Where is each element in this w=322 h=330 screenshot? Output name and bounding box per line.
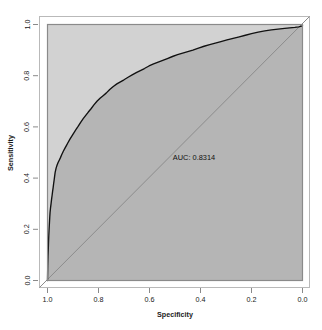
x-axis-tick-label: 0.4 (196, 295, 206, 304)
x-axis-tick-label: 0.0 (298, 295, 308, 304)
x-axis-tick-label: 0.8 (94, 295, 104, 304)
x-axis-tick-label: 1.0 (43, 295, 53, 304)
y-axis-tick-label: 0.0 (23, 276, 32, 286)
x-axis-title: Specificity (157, 310, 193, 319)
y-axis-title: Sensitivity (6, 135, 15, 171)
y-axis-tick-label: 1.0 (23, 20, 32, 30)
y-axis-tick-label: 0.4 (23, 173, 32, 183)
roc-plot-canvas: 1.00.80.60.40.20.0 0.00.20.40.60.81.0 Sp… (0, 0, 322, 330)
roc-curve-figure: 1.00.80.60.40.20.0 0.00.20.40.60.81.0 Sp… (0, 0, 322, 330)
y-axis-tick-label: 0.6 (23, 122, 32, 132)
auc-annotation: AUC: 0.8314 (173, 153, 215, 162)
y-axis-tick-label: 0.8 (23, 71, 32, 81)
y-axis-tick-label: 0.2 (23, 224, 32, 234)
x-axis-tick-label: 0.6 (145, 295, 155, 304)
x-axis-tick-label: 0.2 (247, 295, 257, 304)
